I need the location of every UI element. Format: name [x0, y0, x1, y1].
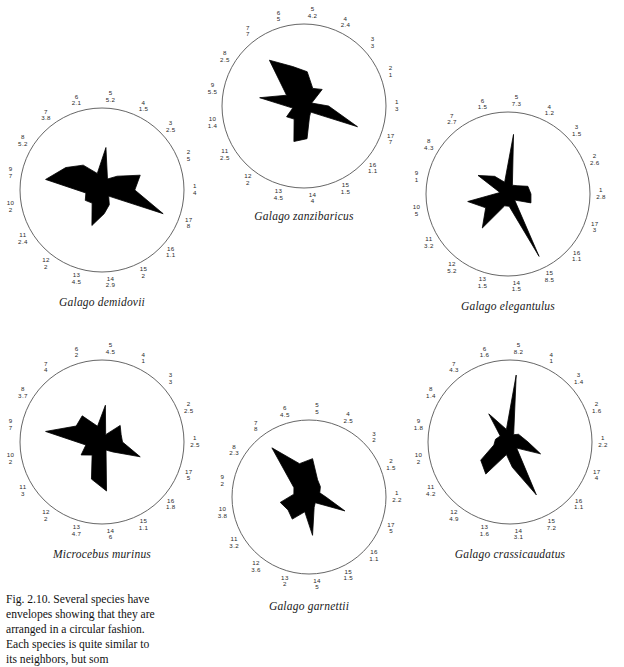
- axis-tick-value: 4.3: [424, 145, 434, 152]
- axis-tick-value: 5.2: [106, 97, 116, 104]
- axis-tick-label: 161.1: [572, 250, 582, 263]
- axis-tick-value: 2.7: [447, 120, 457, 127]
- axis-tick-value: 2: [415, 459, 423, 466]
- polar-chart-galago-crassicaudatus[interactable]: 12.221.631.44158.261.674.381.491.8102114…: [412, 344, 608, 540]
- axis-tick-value: 2.5: [166, 127, 176, 134]
- axis-tick-value: 7: [9, 173, 13, 180]
- axis-tick-value: 2.1: [72, 101, 82, 108]
- axis-tick-value: 8: [254, 427, 258, 434]
- axis-tick-value: 1.1: [574, 505, 584, 512]
- axis-tick-label: 13: [395, 99, 399, 112]
- axis-tick-value: 4: [193, 190, 197, 197]
- axis-tick-label: 141.5: [512, 280, 522, 293]
- axis-tick-value: 5.2: [447, 268, 457, 275]
- polar-chart-galago-elegantulus[interactable]: 12.822.631.541.257.361.572.784.391105113…: [410, 96, 606, 292]
- axis-tick-label: 22.6: [590, 154, 600, 167]
- axis-tick-label: 123.6: [251, 561, 261, 574]
- axis-tick-label: 84.3: [424, 138, 434, 151]
- axis-tick-label: 146: [107, 528, 115, 541]
- axis-tick-value: 3: [19, 491, 26, 498]
- axis-tick-label: 124.9: [449, 510, 459, 523]
- axis-tick-label: 65: [277, 10, 281, 23]
- axis-tick-label: 54.5: [106, 343, 116, 356]
- axis-tick-value: 4.3: [449, 368, 459, 375]
- axis-tick-label: 175: [387, 522, 395, 535]
- axis-tick-value: 2: [140, 273, 148, 280]
- axis-tick-label: 25: [187, 150, 191, 163]
- species-name-2: Galago elegantulus: [410, 300, 606, 312]
- axis-tick-value: 3.6: [251, 567, 261, 574]
- axis-tick-value: 3.7: [18, 393, 28, 400]
- axis-tick-label: 62: [75, 346, 79, 359]
- axis-tick-value: 2: [75, 353, 79, 360]
- axis-tick-label: 102: [7, 452, 15, 465]
- axis-tick-value: 1.4: [574, 379, 584, 386]
- axis-tick-value: 5: [187, 156, 191, 163]
- axis-tick-label: 122: [42, 510, 50, 523]
- chart-cell-3: 12.522.5334154.5627483.797102113122134.7…: [4, 344, 200, 540]
- axis-tick-label: 21: [389, 66, 393, 79]
- polar-chart-galago-garnettii[interactable]: 12.221.53242.55564.57882.392103.8113.212…: [216, 404, 402, 590]
- axis-tick-value: 4: [44, 368, 48, 375]
- axis-tick-label: 21.6: [592, 402, 602, 415]
- axis-tick-label: 114.2: [426, 484, 436, 497]
- axis-tick-value: 5: [387, 529, 395, 536]
- axis-tick-value: 1.5: [572, 131, 582, 138]
- axis-tick-label: 91: [415, 170, 419, 183]
- axis-tick-value: 1.5: [386, 465, 396, 472]
- axis-tick-value: 1.6: [480, 531, 490, 538]
- axis-tick-label: 161.8: [166, 498, 176, 511]
- axis-tick-label: 125.2: [447, 262, 457, 275]
- axis-tick-label: 178: [185, 217, 193, 230]
- axis-tick-label: 81.4: [426, 386, 436, 399]
- axis-tick-label: 74.3: [449, 361, 459, 374]
- axis-tick-label: 58.2: [514, 343, 524, 356]
- axis-tick-value: 1: [550, 359, 554, 366]
- axis-tick-label: 161.1: [368, 162, 378, 175]
- axis-tick-label: 14: [193, 183, 197, 196]
- axis-tick-label: 55: [315, 403, 319, 416]
- axis-tick-label: 103.8: [218, 506, 228, 519]
- axis-tick-label: 12.5: [190, 435, 200, 448]
- axis-tick-value: 2: [221, 481, 225, 488]
- axis-tick-label: 41: [550, 352, 554, 365]
- axis-tick-label: 73.8: [41, 109, 51, 122]
- axis-tick-value: 4: [593, 476, 601, 483]
- axis-tick-value: 1.4: [426, 393, 436, 400]
- axis-tick-label: 113.2: [424, 236, 434, 249]
- axis-tick-value: 5: [277, 17, 281, 24]
- species-name-1: Galago zanzibaricus: [206, 210, 402, 222]
- polar-chart-galago-zanzibaricus[interactable]: 13213342.454.2657782.595.5101.4112.51221…: [206, 8, 402, 204]
- axis-tick-value: 2.6: [590, 160, 600, 167]
- axis-tick-label: 134.5: [72, 273, 82, 286]
- axis-tick-value: 7.3: [512, 101, 522, 108]
- axis-tick-value: 1: [389, 72, 393, 79]
- polar-chart-microcebus-murinus[interactable]: 12.522.5334154.5627483.797102113122134.7…: [4, 344, 200, 540]
- axis-tick-value: 4.2: [426, 491, 436, 498]
- axis-tick-label: 112.5: [220, 148, 230, 161]
- axis-tick-value: 3.2: [229, 543, 239, 550]
- axis-tick-value: 3.8: [218, 513, 228, 520]
- axis-tick-value: 1.8: [414, 425, 424, 432]
- axis-tick-label: 95.5: [208, 82, 218, 95]
- axis-tick-value: 2: [244, 180, 252, 187]
- axis-tick-value: 2.5: [190, 442, 200, 449]
- axis-tick-label: 161.1: [369, 550, 379, 563]
- axis-tick-value: 2: [42, 516, 50, 523]
- polar-chart-galago-demidovii[interactable]: 142532.541.555.262.173.885.297102112.412…: [4, 92, 200, 288]
- axis-tick-value: 8.2: [514, 349, 524, 356]
- figure-caption: Fig. 2.10. Several species have envelope…: [6, 592, 158, 667]
- axis-tick-value: 5: [315, 409, 319, 416]
- axis-tick-value: 2.3: [229, 451, 239, 458]
- axis-tick-value: 2.5: [184, 408, 194, 415]
- axis-tick-label: 21.5: [386, 459, 396, 472]
- polar-envelope-shape: [272, 448, 345, 535]
- axis-tick-label: 105: [413, 204, 421, 217]
- axis-tick-label: 22.5: [184, 402, 194, 415]
- axis-tick-value: 1.1: [139, 525, 149, 532]
- axis-tick-value: 5: [413, 211, 421, 218]
- axis-tick-label: 161.1: [574, 498, 584, 511]
- axis-tick-label: 83.7: [18, 386, 28, 399]
- axis-tick-label: 91.8: [414, 418, 424, 431]
- axis-tick-label: 74: [44, 361, 48, 374]
